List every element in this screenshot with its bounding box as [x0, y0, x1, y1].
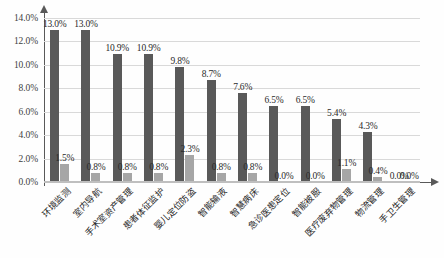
bar-value-label: 0.0% [274, 171, 293, 181]
y-axis-arrow-icon [40, 5, 48, 13]
bar-value-label: 8.7% [202, 69, 221, 79]
bar-value-label: 0.4% [368, 166, 387, 176]
y-axis-tick-label: 14.0% [14, 13, 38, 23]
bar-group: 0.0%0.0% [389, 18, 420, 182]
bar-group: 8.7%0.8% [201, 18, 232, 182]
bar-value-label: 5.4% [327, 108, 346, 118]
bar-group: 10.9%0.8% [107, 18, 138, 182]
y-axis-tick-label: 8.0% [19, 83, 38, 93]
bar-series-2[interactable]: 2.3% [185, 155, 194, 182]
y-axis-tick-label: 4.0% [19, 130, 38, 140]
bar-value-label: 1.1% [337, 158, 356, 168]
bar-series-1[interactable]: 13.0% [81, 30, 90, 182]
y-axis-tick-label: 0.0% [19, 177, 38, 187]
bar-group: 6.5%0.0% [295, 18, 326, 182]
bar-value-label: 13.0% [43, 19, 67, 29]
bar-value-label: 0.0% [306, 171, 325, 181]
bar-group: 13.0%0.8% [75, 18, 106, 182]
bar-value-label: 0.8% [243, 162, 262, 172]
bar-value-label: 7.6% [233, 82, 252, 92]
bar-series-1[interactable]: 9.8% [175, 67, 184, 182]
y-axis-tick-label: 12.0% [14, 36, 38, 46]
bar-value-label: 6.5% [296, 95, 315, 105]
bar-series-1[interactable]: 5.4% [332, 119, 341, 182]
bar-group: 6.5%0.0% [263, 18, 294, 182]
x-axis-arrow-icon [431, 178, 439, 186]
bar-value-label: 2.3% [180, 144, 199, 154]
x-axis-category-labels: 环境监测室内导航手术室资产管理患者体征监护婴儿定位防盗智能输液智慧病床急诊医患定… [44, 183, 420, 258]
x-axis-category-label: 环境监测 [38, 185, 73, 220]
bar-group: 10.9%0.8% [138, 18, 169, 182]
plot-area: 13.0%1.5%13.0%0.8%10.9%0.8%10.9%0.8%9.8%… [44, 18, 420, 182]
plot-baseline [44, 181, 420, 182]
bar-value-label: 0.8% [86, 162, 105, 172]
bar-group: 13.0%1.5% [44, 18, 75, 182]
bar-groups: 13.0%1.5%13.0%0.8%10.9%0.8%10.9%0.8%9.8%… [44, 18, 420, 182]
y-axis-tick-label: 2.0% [19, 154, 38, 164]
y-axis-tick-label: 10.0% [14, 60, 38, 70]
bar-series-2[interactable]: 1.5% [60, 164, 69, 182]
bar-chart: 0.0%2.0%4.0%6.0%8.0%10.0%12.0%14.0% 13.0… [0, 0, 444, 258]
bar-group: 5.4%1.1% [326, 18, 357, 182]
bar-value-label: 4.3% [358, 121, 377, 131]
x-axis-category-label: 智能输液 [195, 185, 230, 220]
bar-value-label: 6.5% [264, 95, 283, 105]
bar-value-label: 9.8% [170, 56, 189, 66]
y-axis-tick-label: 6.0% [19, 107, 38, 117]
y-axis-tick-labels: 0.0%2.0%4.0%6.0%8.0%10.0%12.0%14.0% [0, 0, 41, 200]
bar-group: 4.3%0.4% [357, 18, 388, 182]
bar-value-label: 0.8% [149, 162, 168, 172]
bar-value-label: 10.9% [106, 43, 130, 53]
bar-value-label: 1.5% [55, 153, 74, 163]
bar-group: 7.6%0.8% [232, 18, 263, 182]
bar-value-label: 0.8% [118, 162, 137, 172]
bar-value-label: 13.0% [74, 19, 98, 29]
bar-group: 9.8%2.3% [169, 18, 200, 182]
bar-value-label: 10.9% [137, 43, 161, 53]
bar-value-label: 0.0% [400, 171, 419, 181]
bar-value-label: 0.8% [212, 162, 231, 172]
